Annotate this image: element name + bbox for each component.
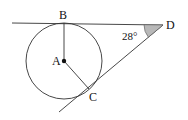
label-c: C — [89, 90, 97, 104]
tangent-line-bd — [12, 23, 163, 25]
label-b: B — [59, 8, 67, 22]
label-d: D — [166, 18, 175, 32]
center-point-a — [62, 59, 66, 63]
tangent-circle-diagram: B A C D 28° — [0, 0, 188, 120]
tangent-line-dc — [59, 25, 163, 112]
angle-label: 28° — [122, 30, 137, 42]
label-a: A — [52, 54, 61, 68]
radius-ac — [64, 61, 89, 89]
angle-marker-d — [144, 25, 163, 38]
